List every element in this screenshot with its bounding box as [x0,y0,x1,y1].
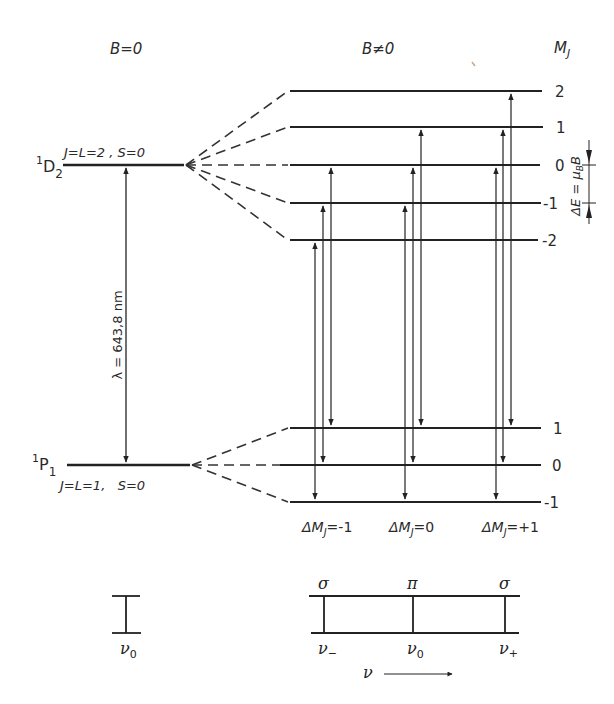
label-dm-0: ΔMJ=0 [388,519,434,538]
lower-sublevels [280,428,541,502]
svg-text:ν+: ν+ [499,639,518,660]
svg-text:σ: σ [499,574,511,593]
lower-mj-labels: 1 0 -1 [544,420,563,512]
spectrum-b-zero [112,596,141,633]
splitting-bracket [582,140,596,224]
upper-splitting-connectors [186,91,288,240]
svg-text:1: 1 [553,420,563,438]
zeeman-effect-diagram: B=0 B≠0 MJ 1D2 J=L=2 , S=0 1P1 J=L=1, S=… [0,0,614,704]
svg-text:-2: -2 [542,232,557,250]
svg-text:0: 0 [552,457,562,475]
svg-text:ν−: ν− [318,639,337,660]
svg-text:-1: -1 [544,494,559,512]
upper-mj-labels: 2 1 0 -1 -2 [542,83,566,250]
transition-arrows [315,94,511,499]
title-b-zero: B=0 [110,40,142,58]
mj-header: MJ [554,39,570,60]
svg-text:σ: σ [318,574,330,593]
frequency-axis-label: ν [363,663,373,682]
level-1d2: 1D2 J=L=2 , S=0 [36,145,184,181]
label-dm-plus1: ΔMJ=+1 [481,519,539,538]
splitting-energy-label: ΔE = μBB [568,156,585,217]
term-symbol-1d2: 1D2 [36,154,63,181]
svg-text:π: π [406,574,418,593]
svg-text:-1: -1 [543,195,558,213]
wavelength-label: λ = 643,8 nm [110,290,125,379]
svg-text:0: 0 [555,157,565,175]
label-dm-minus1: ΔMJ=-1 [301,519,352,538]
stray-mark [472,62,475,66]
spectrum-left-nu0: ν0 [120,639,137,661]
quantum-numbers-1d2: J=L=2 , S=0 [61,145,145,160]
title-b-nonzero: B≠0 [362,40,394,58]
lower-splitting-connectors [192,428,288,502]
svg-text:1: 1 [556,119,566,137]
svg-text:ν0: ν0 [407,639,424,661]
term-symbol-1p1: 1P1 [32,452,56,479]
level-1p1: 1P1 J=L=1, S=0 [32,452,190,493]
frequency-labels: ν− ν0 ν+ [318,639,518,661]
svg-text:2: 2 [555,83,565,101]
polarization-labels: σ π σ [318,574,511,593]
spectrum-b-nonzero [309,596,520,633]
quantum-numbers-1p1: J=L=1, S=0 [57,478,145,493]
upper-sublevels [290,91,543,240]
